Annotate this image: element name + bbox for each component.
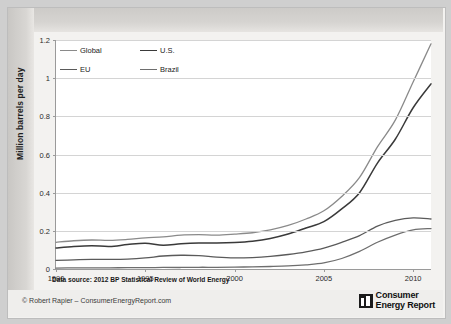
gridline-y [56, 78, 431, 79]
legend-label-brazil: Brazil [160, 65, 179, 74]
legend-item-eu: EU [60, 65, 90, 74]
scan-shading-top [8, 8, 443, 32]
chart-legend: Global U.S. EU Brazil [48, 44, 228, 78]
x-tick-label: 2005 [316, 274, 333, 283]
x-tick-mark [235, 269, 236, 272]
legend-swatch-us [140, 50, 157, 51]
legend-swatch-eu [60, 69, 77, 70]
y-tick-mark [53, 193, 56, 194]
y-tick-label: 0.2 [40, 226, 50, 235]
x-tick-mark [56, 269, 57, 272]
y-tick-mark [53, 40, 56, 41]
y-tick-label: 0.8 [40, 112, 50, 121]
x-tick-label: 2010 [405, 274, 422, 283]
brand-logo-text: Consumer Energy Report [376, 291, 435, 310]
y-tick-mark [53, 231, 56, 232]
data-source-note: Data source: 2012 BP Statistical Review … [52, 276, 229, 283]
x-tick-mark [413, 269, 414, 272]
y-tick-label: 0.4 [40, 188, 50, 197]
y-tick-mark [53, 116, 56, 117]
y-tick-mark [53, 155, 56, 156]
legend-label-us: U.S. [160, 46, 175, 55]
y-axis-label: Million barrels per day [15, 67, 25, 160]
series-line-brazil [56, 229, 431, 269]
y-tick-label: 0 [46, 265, 50, 274]
y-tick-mark [53, 78, 56, 79]
legend-swatch-global [60, 50, 77, 51]
gridline-y [56, 40, 431, 41]
gridline-y [56, 155, 431, 156]
series-line-us [56, 84, 431, 248]
gridline-y [56, 231, 431, 232]
x-tick-mark [145, 269, 146, 272]
screenshot-root: Million barrels per day 00.20.40.60.811.… [0, 0, 451, 324]
gridline-y [56, 116, 431, 117]
series-line-eu [56, 218, 431, 261]
brand-logo-line2: Energy Report [376, 301, 435, 311]
x-tick-mark [324, 269, 325, 272]
legend-swatch-brazil [140, 69, 157, 70]
y-tick-label: 0.6 [40, 150, 50, 159]
copyright-note: © Robert Rapier – ConsumerEnergyReport.c… [22, 297, 171, 304]
legend-label-eu: EU [80, 65, 90, 74]
legend-item-global: Global [60, 46, 102, 55]
gridline-y [56, 193, 431, 194]
legend-item-us: U.S. [140, 46, 175, 55]
legend-label-global: Global [80, 46, 102, 55]
legend-item-brazil: Brazil [140, 65, 179, 74]
brand-logo: Consumer Energy Report [359, 291, 435, 310]
consumer-energy-report-logo-icon [359, 294, 373, 308]
